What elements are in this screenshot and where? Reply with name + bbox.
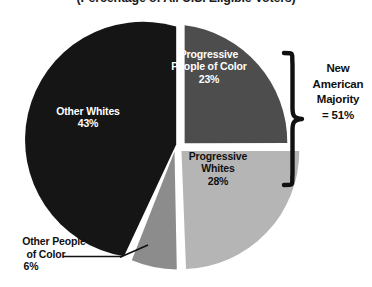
slice-label-percent: 43% (33, 117, 143, 129)
new-american-majority-annotation: New American Majority = 51% (304, 61, 372, 123)
slice-callout-other-people-of-color: Other People of Color 6% (2, 235, 106, 273)
callout-percent: 6% (24, 260, 85, 272)
slice-label-progressive-people-of-color: Progressive People of Color 23% (148, 48, 270, 85)
annotation-line2: American (313, 78, 364, 90)
slice-label-line1: Progressive (180, 48, 238, 60)
slice-label-line1: Progressive (189, 150, 247, 162)
slice-label-line2: Whites (201, 162, 235, 174)
slice-label-percent: 23% (148, 73, 270, 85)
slice-label-progressive-whites: Progressive Whites 28% (163, 150, 273, 187)
slice-label-line1: Other Whites (56, 105, 120, 117)
annotation-total: = 51% (322, 109, 354, 121)
slice-label-percent: 28% (163, 175, 273, 187)
callout-line1: Other People (22, 235, 86, 247)
slice-label-line2: People of Color (171, 60, 246, 72)
callout-line2: of Color (26, 248, 81, 260)
annotation-line3: Majority (317, 93, 360, 105)
annotation-line1: New (326, 62, 349, 74)
pie-chart-figure: (Percentage of All U.S. Eligible Voters)… (0, 0, 372, 287)
slice-label-other-whites: Other Whites 43% (33, 105, 143, 130)
